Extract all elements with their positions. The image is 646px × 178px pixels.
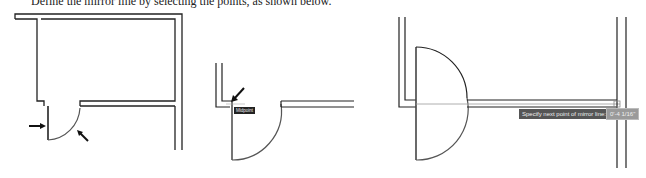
- midpoint-snap-tooltip: Midpoint: [234, 107, 255, 114]
- dynamic-input-field[interactable]: 0'-4 1/16": [606, 108, 639, 120]
- mirror-line-prompt-tooltip: Specify next point of mirror line:: [519, 109, 609, 119]
- figure-3-mirror-line: [399, 17, 626, 168]
- floor-plan-figures: [0, 0, 646, 178]
- figure-1-room: [15, 14, 182, 150]
